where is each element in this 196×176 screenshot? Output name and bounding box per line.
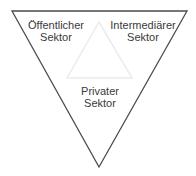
label-intermediary-sector: Intermediärer Sektor (110, 19, 176, 43)
label-private-sector: Privater Sektor (70, 85, 130, 109)
label-public-line1: Öffentlicher (26, 19, 86, 31)
label-intermediary-line2: Sektor (110, 31, 176, 43)
label-private-line1: Privater (70, 85, 130, 97)
label-intermediary-line1: Intermediärer (110, 19, 176, 31)
label-public-line2: Sektor (26, 31, 86, 43)
label-private-line2: Sektor (70, 97, 130, 109)
label-public-sector: Öffentlicher Sektor (26, 19, 86, 43)
